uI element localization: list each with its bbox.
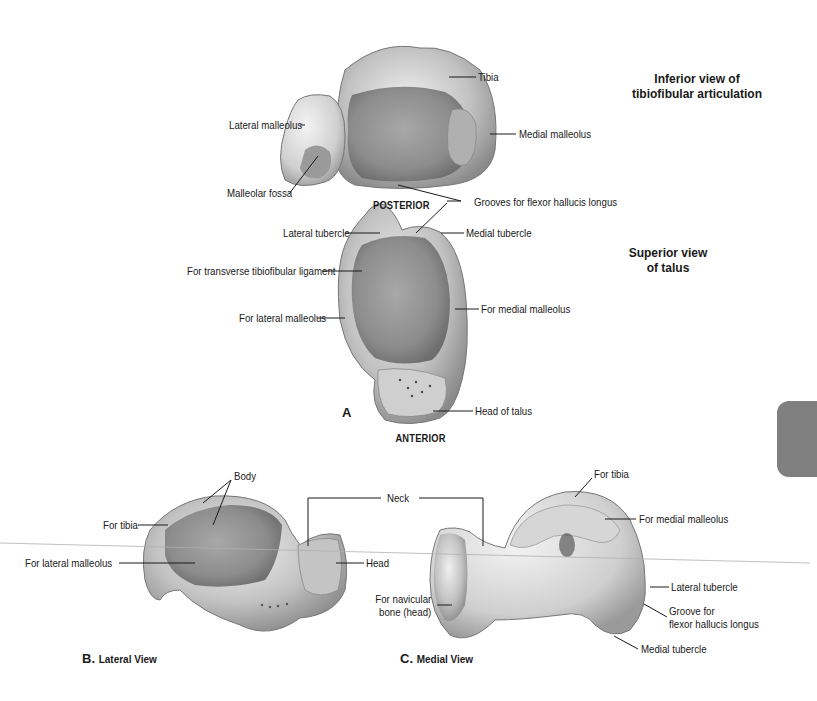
label-for-tibia-c: For tibia xyxy=(594,468,629,481)
figure-b-letter: B. xyxy=(82,651,95,666)
inferior-caption-line1: Inferior view of xyxy=(612,72,782,87)
label-for-medial-malleolus-c: For medial malleolus xyxy=(639,513,728,526)
figure-c-caption: C. Medial View xyxy=(400,651,473,666)
label-head-b: Head xyxy=(366,557,389,570)
label-head-of-talus: Head of talus xyxy=(475,405,532,418)
navicular-line2: bone (head) xyxy=(372,606,431,619)
label-lateral-malleolus: Lateral malleolus xyxy=(229,119,302,132)
label-for-medial-malleolus-a: For medial malleolus xyxy=(481,303,570,316)
label-for-navicular: For navicular bone (head) xyxy=(372,593,431,619)
scan-artifact-line xyxy=(0,543,810,563)
posterior-label: POSTERIOR xyxy=(373,199,430,211)
label-transverse-tibiofibular-ligament: For transverse tibiofibular ligament xyxy=(187,265,336,278)
label-tibia: Tibia xyxy=(478,71,499,84)
label-malleolar-fossa: Malleolar fossa xyxy=(227,187,292,200)
superior-view-caption: Superior view of talus xyxy=(618,246,718,276)
label-medial-malleolus: Medial malleolus xyxy=(519,128,591,141)
inferior-caption-line2: tibiofibular articulation xyxy=(612,87,782,102)
label-lateral-tubercle: Lateral tubercle xyxy=(283,227,350,240)
chapter-thumb-tab xyxy=(777,401,817,477)
label-lateral-tubercle-c: Lateral tubercle xyxy=(671,581,738,594)
talus-superior-bone xyxy=(338,204,467,424)
groove-line2: flexor hallucis longus xyxy=(669,618,759,631)
talus-medial-bone xyxy=(430,492,645,638)
tibiofibular-inferior-bones xyxy=(281,46,497,188)
label-groove-fhl-c: Groove for flexor hallucis longus xyxy=(669,605,759,631)
inferior-view-caption: Inferior view of tibiofibular articulati… xyxy=(612,72,782,102)
label-body: Body xyxy=(234,470,256,483)
label-grooves-fhl: Grooves for flexor hallucis longus xyxy=(474,196,617,209)
label-medial-tubercle: Medial tubercle xyxy=(466,227,532,240)
figure-c-letter: C. xyxy=(400,651,413,666)
figure-c-title: Medial View xyxy=(417,654,474,665)
anterior-label: ANTERIOR xyxy=(395,432,445,444)
label-for-lateral-malleolus-b: For lateral malleolus xyxy=(25,557,112,570)
label-for-tibia-b: For tibia xyxy=(103,519,138,532)
figure-a-letter: A xyxy=(342,405,351,420)
navicular-line1: For navicular xyxy=(372,593,431,606)
label-for-lateral-malleolus-a: For lateral malleolus xyxy=(239,312,326,325)
label-medial-tubercle-c: Medial tubercle xyxy=(641,643,707,656)
label-neck: Neck xyxy=(387,492,409,505)
superior-caption-line2: of talus xyxy=(618,261,718,276)
groove-line1: Groove for xyxy=(669,605,759,618)
figure-b-caption: B. Lateral View xyxy=(82,651,157,666)
figure-b-title: Lateral View xyxy=(99,654,157,665)
superior-caption-line1: Superior view xyxy=(618,246,718,261)
